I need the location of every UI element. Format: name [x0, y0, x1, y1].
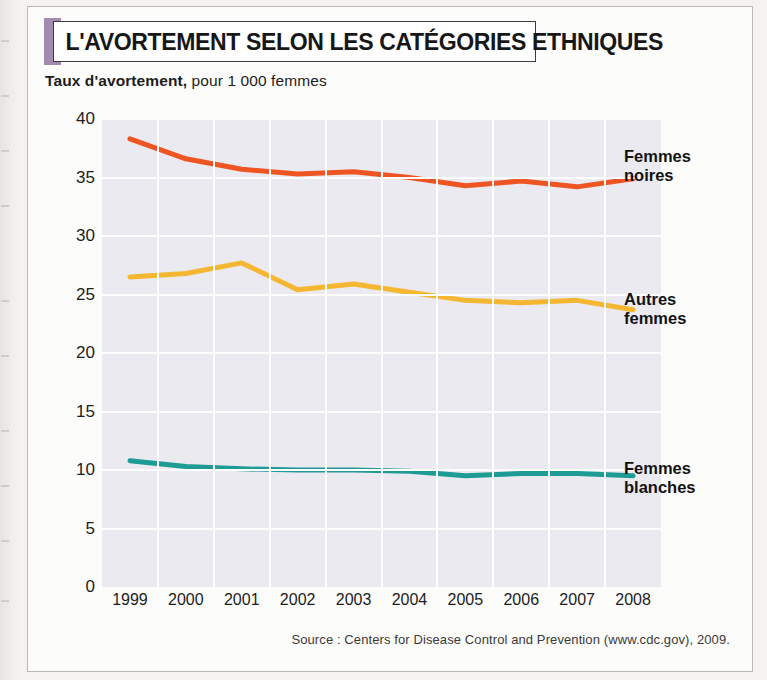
legend-label-line-2: noires [624, 166, 691, 185]
y-tick-label: 30 [76, 226, 95, 246]
chart-subtitle: Taux d'avortement, pour 1 000 femmes [45, 72, 327, 90]
y-tick-label: 20 [76, 343, 95, 363]
y-tick-label: 25 [76, 285, 95, 305]
gridline-vertical [157, 119, 159, 587]
chart-subtitle-bold: Taux d'avortement, [45, 72, 187, 89]
legend-label-line-1: Autres [624, 290, 686, 309]
scan-edge-mark [1, 540, 9, 542]
x-tick-label: 2001 [224, 591, 260, 609]
chart-area: 0510152025303540 19992000200120022003200… [69, 99, 720, 587]
x-tick-label: 2007 [559, 591, 595, 609]
y-tick-label: 0 [86, 577, 95, 597]
gridline-vertical [548, 119, 550, 587]
x-tick-label: 2008 [615, 591, 651, 609]
x-tick-label: 2005 [448, 591, 484, 609]
gridline-vertical [269, 119, 271, 587]
x-tick-label: 2003 [336, 591, 372, 609]
x-tick-label: 1999 [112, 591, 148, 609]
legend-label-line-1: Femmes [624, 459, 696, 478]
scan-edge-mark [1, 40, 9, 42]
legend-label-femmes-blanches: Femmesblanches [624, 459, 696, 498]
source-note: Source : Centers for Disease Control and… [28, 632, 730, 647]
x-tick-label: 2000 [168, 591, 204, 609]
legend-label-line-1: Femmes [624, 147, 691, 166]
y-axis: 0510152025303540 [69, 99, 102, 587]
y-tick-label: 35 [76, 168, 95, 188]
y-tick-label: 5 [86, 519, 95, 539]
title-box: L'AVORTEMENT SELON LES CATÉGORIES ETHNIQ… [53, 21, 536, 62]
gridline-vertical [213, 119, 215, 587]
gridline-vertical [381, 119, 383, 587]
scan-edge-mark [1, 485, 9, 487]
scan-edge-mark [1, 150, 9, 152]
legend-label-line-2: femmes [624, 309, 686, 328]
scan-edge-mark [1, 95, 9, 97]
gridline-vertical [436, 119, 438, 587]
scan-edge-mark [1, 600, 9, 602]
gridline-vertical [325, 119, 327, 587]
page-root: L'AVORTEMENT SELON LES CATÉGORIES ETHNIQ… [0, 0, 767, 680]
x-axis: 1999200020012002200320042005200620072008 [102, 591, 661, 615]
legend-label-femmes-noires: Femmesnoires [624, 147, 691, 186]
legend-label-autres-femmes: Autresfemmes [624, 290, 686, 329]
y-tick-label: 15 [76, 402, 95, 422]
gridline-vertical [604, 119, 606, 587]
figure-card: L'AVORTEMENT SELON LES CATÉGORIES ETHNIQ… [27, 6, 753, 672]
scan-edge-mark [1, 355, 9, 357]
x-tick-label: 2002 [280, 591, 316, 609]
plot-canvas [102, 119, 661, 587]
x-tick-label: 2004 [392, 591, 428, 609]
scan-edge-mark [1, 300, 9, 302]
scan-page-edge [0, 0, 22, 680]
y-tick-label: 40 [76, 109, 95, 129]
scan-edge-mark [1, 430, 9, 432]
gridline-vertical [492, 119, 494, 587]
scan-edge-marks [0, 0, 10, 680]
page-title: L'AVORTEMENT SELON LES CATÉGORIES ETHNIQ… [54, 28, 663, 56]
y-tick-label: 10 [76, 460, 95, 480]
title-block: L'AVORTEMENT SELON LES CATÉGORIES ETHNIQ… [44, 18, 536, 65]
chart-subtitle-light: pour 1 000 femmes [187, 72, 327, 89]
scan-edge-mark [1, 205, 9, 207]
x-tick-label: 2006 [503, 591, 539, 609]
legend-label-line-2: blanches [624, 478, 696, 497]
